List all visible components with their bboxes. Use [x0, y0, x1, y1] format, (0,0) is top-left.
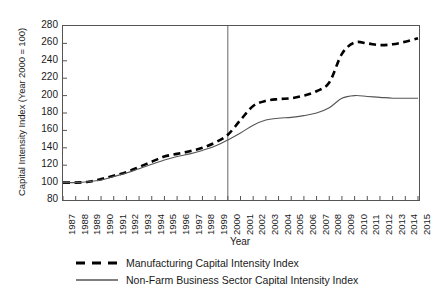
x-axis-tick-label: 2000: [231, 199, 242, 235]
y-axis-tick-label: 100: [26, 176, 58, 188]
series-line-1: [63, 38, 418, 182]
x-axis-tick-label: 2005: [294, 199, 305, 235]
x-axis-tick-label: 1990: [104, 199, 115, 235]
x-axis-tick-label: 1988: [79, 199, 90, 235]
x-axis-tick-label: 1993: [142, 199, 153, 235]
x-axis-tick-label: 1996: [180, 199, 191, 235]
series-line-2: [63, 96, 418, 183]
plot-area: [62, 25, 420, 201]
legend-item[interactable]: Non-Farm Business Sector Capital Intensi…: [74, 271, 414, 288]
x-axis-tick-label: 2007: [320, 199, 331, 235]
x-axis-tick-label: 2011: [370, 199, 381, 235]
y-axis-tick-label: 160: [26, 123, 58, 135]
x-axis-tick-label: 2015: [421, 199, 432, 235]
y-axis-tick-marks: [63, 43, 67, 182]
y-axis-tick-label: 120: [26, 158, 58, 170]
x-axis-tick-label: 2001: [244, 199, 255, 235]
data-series-group: [63, 38, 418, 182]
x-axis-tick-label: 1991: [117, 199, 128, 235]
y-axis-tick-label: 180: [26, 106, 58, 118]
dashed-line-icon: [74, 256, 120, 270]
y-axis-tick-label: 260: [26, 36, 58, 48]
y-axis-tick-label: 80: [26, 193, 58, 205]
x-axis-tick-label: 2003: [269, 199, 280, 235]
y-axis-tick-label: 200: [26, 89, 58, 101]
legend-item-label: Non-Farm Business Sector Capital Intensi…: [126, 273, 358, 287]
y-axis-tick-label: 220: [26, 71, 58, 83]
y-axis-tick-label: 280: [26, 19, 58, 31]
plot-svg: [63, 26, 419, 200]
x-axis-tick-label: 1998: [205, 199, 216, 235]
legend-item-label: Manufacturing Capital Intensity Index: [126, 256, 299, 270]
x-axis-tick-label: 2010: [358, 199, 369, 235]
x-axis-tick-label: 1989: [91, 199, 102, 235]
x-axis-tick-label: 2013: [396, 199, 407, 235]
solid-line-icon: [74, 273, 120, 287]
x-axis-tick-label: 1997: [193, 199, 204, 235]
x-axis-tick-labels: 1987198819891990199119921993199419951996…: [62, 201, 420, 241]
x-axis-tick-label: 2004: [282, 199, 293, 235]
y-axis-tick-labels: 28026024022020018016014012010080: [26, 18, 58, 206]
x-axis-tick-label: 1995: [167, 199, 178, 235]
y-axis-tick-label: 140: [26, 141, 58, 153]
y-axis-tick-label: 240: [26, 54, 58, 66]
capital-intensity-line-chart: Capital Intensity Index (Year 2000 = 100…: [0, 0, 437, 299]
x-axis-tick-label: 1999: [218, 199, 229, 235]
x-axis-tick-label: 2009: [345, 199, 356, 235]
x-axis-tick-label: 1994: [155, 199, 166, 235]
x-axis-tick-label: 2014: [408, 199, 419, 235]
chart-legend: Manufacturing Capital Intensity IndexNon…: [74, 254, 414, 288]
x-axis-tick-label: 1992: [129, 199, 140, 235]
x-axis-tick-label: 1987: [66, 199, 77, 235]
legend-item[interactable]: Manufacturing Capital Intensity Index: [74, 254, 414, 271]
x-axis-tick-label: 2012: [383, 199, 394, 235]
x-axis-tick-label: 2006: [307, 199, 318, 235]
x-axis-title: Year: [62, 236, 418, 247]
x-axis-tick-label: 2008: [332, 199, 343, 235]
x-axis-tick-label: 2002: [256, 199, 267, 235]
